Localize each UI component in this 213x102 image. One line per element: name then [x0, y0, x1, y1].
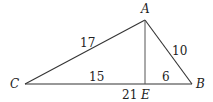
length-label-CE: 15 [89, 70, 104, 84]
triangle-diagram: A C B E 17 10 15 6 21 [0, 0, 213, 102]
length-label-EB: 6 [162, 70, 170, 84]
vertex-label-C: C [10, 77, 19, 91]
point-label-E: E [140, 88, 150, 102]
segment-CA [25, 20, 145, 84]
length-label-AB: 10 [172, 44, 187, 58]
length-label-CB: 21 [122, 88, 137, 102]
vertex-label-B: B [195, 77, 205, 91]
length-label-CA: 17 [80, 36, 95, 50]
vertex-label-A: A [140, 2, 150, 16]
